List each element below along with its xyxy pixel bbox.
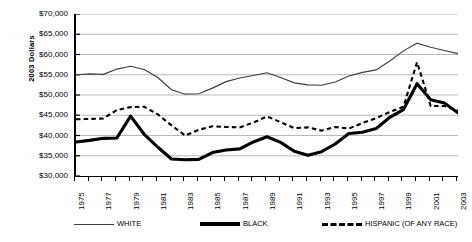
x-tick-mark [415, 176, 416, 181]
x-tick-mark [306, 176, 307, 181]
line-thin-swatch [74, 224, 114, 225]
x-tick-label: 1991 [296, 192, 304, 210]
legend-item-white[interactable]: WHITE [74, 218, 141, 230]
line-dashed-swatch [322, 223, 362, 226]
x-tick-mark [224, 176, 225, 181]
x-tick-label: 1979 [133, 192, 141, 210]
x-tick-label: 1995 [351, 192, 359, 210]
x-tick-mark [197, 176, 198, 181]
x-tick-mark [115, 176, 116, 181]
line-thick-swatch [200, 222, 240, 226]
x-tick-mark [442, 176, 443, 181]
y-tick-label: $40,000 [10, 132, 68, 140]
x-tick-mark [142, 176, 143, 181]
x-tick-mark [374, 176, 375, 181]
x-tick-mark [101, 176, 102, 181]
x-tick-mark [251, 176, 252, 181]
y-tick-label: $70,000 [10, 10, 68, 18]
x-tick-label: 1999 [405, 192, 413, 210]
chart-root: 2003 Dollars $70,000$65,000$60,000$55,00… [0, 0, 472, 242]
series-line-white [76, 43, 458, 94]
plot-svg [76, 14, 458, 176]
x-axis-tick-labels: 1975197719791981198319851987198919911993… [0, 182, 472, 216]
x-tick-mark [156, 176, 157, 181]
legend-label-hispanic: HISPANIC (OF ANY RACE) [365, 220, 457, 228]
y-tick-label: $50,000 [10, 91, 68, 99]
x-tick-mark [401, 176, 402, 181]
x-tick-label: 1997 [378, 192, 386, 210]
gridlines [76, 14, 458, 176]
y-tick-label: $60,000 [10, 51, 68, 59]
x-tick-mark [361, 176, 362, 181]
x-tick-mark [129, 176, 130, 181]
x-tick-mark [429, 176, 430, 181]
x-tick-mark [183, 176, 184, 181]
y-tick-label: $35,000 [10, 152, 68, 160]
y-tick-label: $30,000 [10, 172, 68, 180]
x-tick-mark [333, 176, 334, 181]
x-tick-mark [170, 176, 171, 181]
x-tick-label: 1985 [214, 192, 222, 210]
x-tick-label: 1993 [324, 192, 332, 210]
x-tick-mark [265, 176, 266, 181]
legend-item-black[interactable]: BLACK [200, 218, 268, 230]
plot-area [74, 14, 458, 177]
legend-item-hispanic[interactable]: HISPANIC (OF ANY RACE) [322, 218, 457, 230]
x-tick-label: 1989 [269, 192, 277, 210]
x-tick-mark [210, 176, 211, 181]
x-tick-label: 2003 [460, 192, 468, 210]
x-tick-label: 1981 [160, 192, 168, 210]
x-tick-mark [238, 176, 239, 181]
x-tick-mark [388, 176, 389, 181]
x-tick-label: 1975 [78, 192, 86, 210]
x-tick-mark [320, 176, 321, 181]
y-tick-label: $55,000 [10, 71, 68, 79]
legend-label-black: BLACK [243, 220, 268, 228]
x-tick-label: 1983 [187, 192, 195, 210]
x-tick-mark [279, 176, 280, 181]
legend-label-white: WHITE [117, 220, 141, 228]
x-tick-label: 2001 [433, 192, 441, 210]
x-tick-label: 1977 [105, 192, 113, 210]
x-tick-mark [74, 176, 75, 181]
chart-legend: WHITE BLACK HISPANIC (OF ANY RACE) [74, 218, 454, 232]
y-tick-label: $45,000 [10, 111, 68, 119]
x-tick-mark [88, 176, 89, 181]
y-tick-label: $65,000 [10, 30, 68, 38]
x-tick-mark [456, 176, 457, 181]
x-tick-label: 1987 [242, 192, 250, 210]
x-tick-mark [292, 176, 293, 181]
x-tick-mark [347, 176, 348, 181]
